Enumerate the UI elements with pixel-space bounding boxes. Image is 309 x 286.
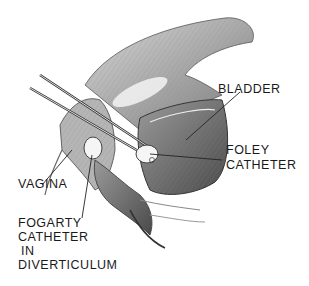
fogarty-label-line2: CATHETER bbox=[18, 230, 88, 244]
bladder-label: BLADDER bbox=[218, 82, 281, 96]
fogarty-label-line4: DIVERTICULUM bbox=[18, 258, 118, 272]
vagina-label: VAGINA bbox=[18, 177, 67, 191]
fogarty-label-line3: IN bbox=[21, 244, 35, 258]
foley-label-line1: FOLEY bbox=[226, 143, 270, 157]
illustration: BLADDER FOLEY CATHETER VAGINA FOGARTY CA… bbox=[0, 0, 309, 286]
fogarty-label-line1: FOGARTY bbox=[18, 216, 82, 230]
fogarty-balloon bbox=[84, 137, 102, 159]
foley-label-line2: CATHETER bbox=[226, 158, 296, 172]
